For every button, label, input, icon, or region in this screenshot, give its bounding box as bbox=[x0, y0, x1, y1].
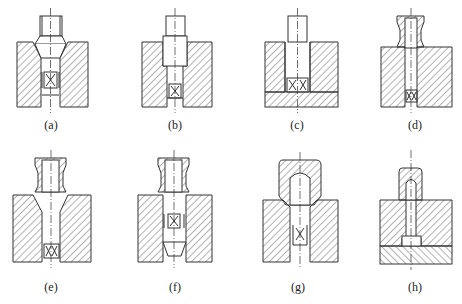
panel-f bbox=[138, 150, 212, 268]
panel-label-d: (d) bbox=[395, 118, 435, 133]
panel-label-g: (g) bbox=[278, 280, 318, 295]
panel-label-h: (h) bbox=[395, 280, 435, 295]
panel-b bbox=[142, 8, 212, 113]
panel-label-e: (e) bbox=[31, 280, 71, 295]
panel-c bbox=[265, 8, 338, 113]
panel-label-c: (c) bbox=[277, 118, 317, 133]
panel-d bbox=[381, 8, 452, 113]
panel-a bbox=[17, 8, 88, 113]
diagram-canvas bbox=[0, 0, 462, 304]
panel-h bbox=[380, 150, 452, 270]
panel-label-b: (b) bbox=[155, 118, 195, 133]
panel-label-f: (f) bbox=[155, 280, 195, 295]
panel-e bbox=[13, 150, 91, 268]
panel-g bbox=[263, 152, 338, 268]
panel-label-a: (a) bbox=[31, 118, 71, 133]
